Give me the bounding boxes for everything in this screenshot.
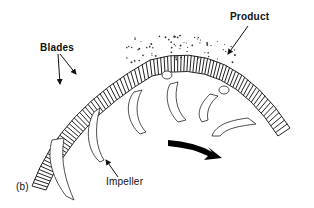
label-arrows bbox=[58, 26, 248, 177]
product-label: Product bbox=[230, 11, 269, 22]
impeller-drawing bbox=[0, 0, 314, 208]
impeller-label: Impeller bbox=[106, 176, 143, 187]
blades-label: Blades bbox=[40, 42, 74, 53]
impeller-vanes bbox=[50, 82, 256, 200]
rotation-arrow bbox=[168, 140, 222, 160]
impeller-diagram: Blades Product Impeller (b) bbox=[0, 0, 314, 208]
subfigure-label: (b) bbox=[16, 181, 29, 192]
